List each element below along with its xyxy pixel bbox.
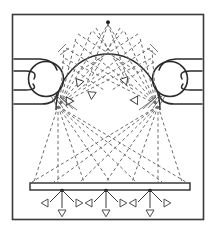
figure-page	[0, 0, 216, 232]
node-center-arrowhead-c	[120, 199, 127, 207]
node-right-arrowhead-a	[129, 199, 136, 207]
right-bulb-group	[153, 59, 203, 104]
ray-x5	[96, 28, 124, 76]
emission-node-left	[41, 189, 83, 217]
ray-dn-l6	[58, 106, 162, 182]
ray-dn-r7	[32, 106, 158, 182]
ray-x6	[92, 28, 120, 76]
lower-ray-network	[32, 106, 186, 182]
ray-dn-r4	[106, 106, 158, 182]
ray-up-r1	[108, 24, 156, 104]
ray-dn-l3	[58, 106, 84, 182]
ray-up-r2	[124, 30, 156, 104]
node-center-arrowhead-a	[85, 199, 92, 207]
node-left-arrowhead-c	[76, 199, 83, 207]
left-bulb-group	[14, 59, 64, 104]
node-right-arrowhead-b	[146, 210, 154, 217]
ray-dn-l1	[34, 106, 58, 182]
ray-up-l1	[60, 24, 108, 104]
right-line-2	[181, 71, 202, 79]
ray-dn-l5	[58, 106, 136, 182]
ray-dn-r6	[54, 106, 158, 182]
ray-dn-r1	[158, 106, 182, 182]
node-right-shaft-a	[138, 190, 150, 202]
detector-bar	[30, 183, 190, 190]
node-center-arrowhead-b	[102, 210, 110, 217]
node-left-arrowhead-a	[41, 199, 48, 207]
node-center-shaft-a	[94, 190, 106, 202]
upper-ray-network	[60, 24, 156, 104]
right-line-3	[182, 84, 202, 90]
node-right-shaft-c	[150, 190, 162, 202]
node-right-arrowhead-c	[164, 199, 171, 207]
ray-diagram-figure	[0, 0, 216, 232]
dome-arrowhead-1	[74, 79, 84, 89]
left-line-3	[14, 84, 34, 90]
node-left-shaft-c	[62, 190, 74, 202]
dome-apex-node	[106, 20, 110, 24]
dome-arrowhead-4	[130, 96, 141, 106]
ray-dn-r5	[80, 106, 158, 182]
emission-node-right	[129, 189, 171, 217]
ray-dn-l7	[58, 106, 186, 182]
emission-node-center	[85, 189, 127, 217]
node-left-shaft-a	[50, 190, 62, 202]
left-line-2	[14, 71, 35, 79]
ray-dn-l4	[58, 106, 110, 182]
ray-dn-r3	[132, 106, 158, 182]
node-left-arrowhead-b	[58, 210, 66, 217]
ray-up-l7	[60, 58, 152, 104]
ray-up-l2	[60, 30, 92, 104]
node-center-shaft-c	[106, 190, 118, 202]
dome-arrowheads	[63, 77, 142, 108]
dome-arrowhead-5	[87, 92, 96, 100]
